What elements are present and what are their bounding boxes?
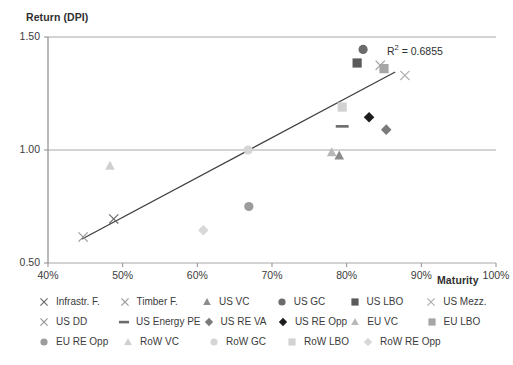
data-point (244, 202, 253, 211)
data-point (353, 58, 362, 67)
legend-item[interactable]: US LBO (347, 295, 424, 309)
legend-item-label: EU LBO (444, 315, 481, 329)
triangle-icon (199, 295, 215, 309)
data-point (358, 45, 367, 54)
legend-item[interactable]: RoW LBO (284, 335, 360, 349)
legend-item-label: US RE Opp (295, 315, 347, 329)
legend-item[interactable]: Infrastr. F. (36, 295, 117, 309)
scatter-chart: Return (DPI) Maturity 1.501.000.50 40%50… (0, 0, 513, 365)
circle-icon (36, 335, 52, 349)
data-point (244, 145, 253, 154)
legend-item[interactable]: US VC (199, 295, 274, 309)
data-point (379, 64, 388, 73)
circle-icon (274, 295, 290, 309)
data-point (327, 147, 337, 156)
legend-item[interactable]: Timber F. (117, 295, 199, 309)
legend-item-label: US DD (56, 315, 87, 329)
legend-row: US DDUS Energy PEUS RE VAUS RE OppEU VCE… (36, 312, 496, 332)
legend-row: EU RE OppRoW VCRoW GCRoW LBORoW RE Opp (36, 332, 496, 352)
legend-item-label: US GC (294, 295, 326, 309)
legend-item-label: US Mezz. (443, 295, 486, 309)
diamond-icon (201, 315, 217, 329)
data-point (338, 102, 347, 111)
data-point (364, 112, 375, 123)
legend-item-label: RoW RE Opp (380, 335, 441, 349)
trendline (82, 72, 396, 239)
legend-row: Infrastr. F.Timber F.US VCUS GCUS LBOUS … (36, 292, 496, 312)
legend-item-label: RoW LBO (304, 335, 349, 349)
square-icon (347, 295, 363, 309)
legend-item[interactable]: EU RE Opp (36, 335, 120, 349)
triangle-icon (120, 335, 136, 349)
legend-item-label: Infrastr. F. (56, 295, 100, 309)
legend-item-label: US RE VA (221, 315, 267, 329)
diamond-icon (275, 315, 291, 329)
x-thin-icon (423, 295, 439, 309)
data-point (336, 125, 349, 128)
legend-item[interactable]: US GC (274, 295, 347, 309)
triangle-icon (347, 315, 363, 329)
legend-item-label: RoW GC (226, 335, 266, 349)
dash-icon (116, 315, 132, 329)
legend-item[interactable]: US Mezz. (423, 295, 496, 309)
legend-item-label: EU VC (367, 315, 398, 329)
legend-item-label: Timber F. (137, 295, 178, 309)
x-thin-icon (36, 295, 52, 309)
data-point (381, 124, 392, 135)
circle-icon (206, 335, 222, 349)
data-point (105, 161, 115, 170)
legend-item[interactable]: US RE Opp (275, 315, 347, 329)
legend-item[interactable]: RoW RE Opp (360, 335, 440, 349)
legend-item[interactable]: EU VC (347, 315, 423, 329)
chart-legend: Infrastr. F.Timber F.US VCUS GCUS LBOUS … (36, 292, 496, 352)
legend-item[interactable]: RoW GC (206, 335, 284, 349)
legend-item[interactable]: EU LBO (424, 315, 496, 329)
square-icon (284, 335, 300, 349)
legend-item[interactable]: US RE VA (201, 315, 275, 329)
data-point (400, 71, 409, 80)
legend-item[interactable]: US Energy PE (116, 315, 200, 329)
x-thin-icon (117, 295, 133, 309)
legend-item-label: US LBO (367, 295, 404, 309)
legend-item-label: US Energy PE (136, 315, 200, 329)
diamond-icon (360, 335, 376, 349)
square-icon (424, 315, 440, 329)
legend-item[interactable]: RoW VC (120, 335, 206, 349)
x-thin-icon (36, 315, 52, 329)
legend-item-label: US VC (219, 295, 250, 309)
legend-item-label: EU RE Opp (56, 335, 108, 349)
legend-item-label: RoW VC (140, 335, 179, 349)
data-point (198, 225, 209, 236)
legend-item[interactable]: US DD (36, 315, 116, 329)
